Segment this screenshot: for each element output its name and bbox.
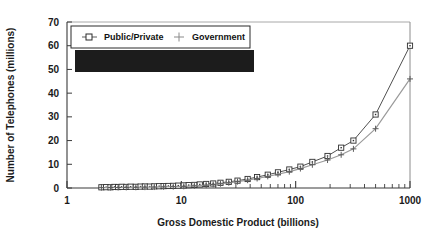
legend-label-public-private: Public/Private [104,32,164,42]
x-axis-title: Gross Domestic Product (billions) [157,217,319,228]
x-tick-label: 10 [176,195,188,206]
telephones-vs-gdp-chart: 010203040506070 1101001000 Gross Domesti… [0,0,430,233]
y-tick-label: 40 [48,88,60,99]
y-tick-label: 30 [48,111,60,122]
data-point [339,145,344,150]
legend-label-government: Government [192,32,245,42]
data-point [351,138,356,143]
y-tick-label: 60 [48,40,60,51]
chart-figure: 010203040506070 1101001000 Gross Domesti… [0,0,430,233]
y-tick-label: 50 [48,64,60,75]
y-tick-label: 10 [48,159,60,170]
data-point [197,182,202,187]
y-axis-title: Number of Telephones (millions) [5,28,16,183]
data-point [373,112,378,117]
x-tick-label: 1000 [399,195,422,206]
data-point [176,183,181,188]
data-point [186,183,191,188]
legend-shadow [75,50,254,72]
y-tick-label: 20 [48,135,60,146]
square-marker-icon [86,34,92,40]
y-tick-label: 70 [48,17,60,28]
x-tick-label: 100 [287,195,304,206]
data-point [128,184,133,189]
data-point [166,183,171,188]
y-tick-label: 0 [53,183,59,194]
data-point [407,43,412,48]
x-tick-label: 1 [64,195,70,206]
